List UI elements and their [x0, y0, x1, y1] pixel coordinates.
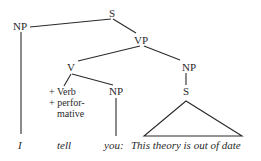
leaf-verb: tell	[57, 140, 71, 151]
feature-verb: + Verb	[49, 87, 76, 97]
syntax-tree-diagram: S NP VP V NP NP S + Verb + perfor- mativ…	[0, 0, 261, 161]
node-s-embedded: S	[183, 86, 189, 97]
feature-performative-cont: mative	[57, 109, 84, 119]
node-s: S	[109, 8, 115, 19]
leaf-subject: I	[18, 140, 22, 151]
leaf-object: you:	[104, 140, 124, 151]
node-vp: VP	[134, 35, 148, 46]
node-np-subject: NP	[13, 21, 27, 32]
leaf-clause: This theory is out of date	[131, 140, 241, 151]
tree-edges	[0, 0, 261, 161]
node-np-complement: NP	[182, 62, 196, 73]
feature-performative: + perfor-	[49, 98, 85, 108]
node-np-object: NP	[109, 86, 123, 97]
node-v: V	[67, 62, 75, 73]
